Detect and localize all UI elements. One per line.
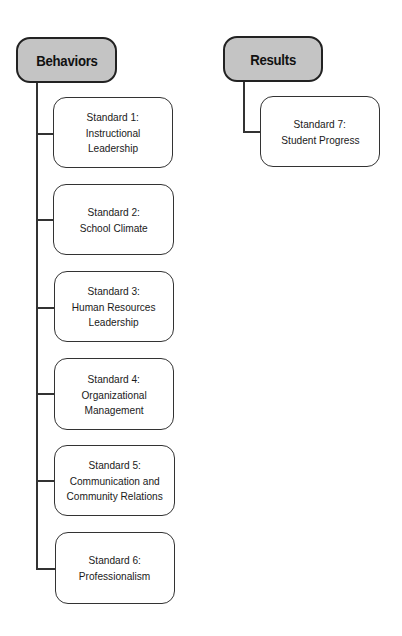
standard-3-title: Standard 3: [88, 283, 140, 300]
standard-1-name: Instructional Leadership [86, 126, 141, 156]
connector-standard-2 [36, 219, 54, 221]
standard-1-box: Standard 1: Instructional Leadership [53, 97, 173, 168]
standard-2-name: School Climate [79, 221, 147, 236]
standard-4-box: Standard 4: Organizational Management [54, 358, 174, 430]
standard-3-name: Human Resources Leadership [72, 300, 156, 330]
standard-1-title: Standard 1: [87, 109, 139, 126]
org-chart-diagram: Behaviors Standard 1: Instructional Lead… [0, 0, 402, 636]
standard-7-box: Standard 7: Student Progress [260, 96, 380, 167]
connector-standard-4 [36, 393, 55, 395]
behaviors-vertical-connector [36, 83, 38, 569]
standard-5-name: Communication and Community Relations [66, 474, 162, 504]
standard-6-title: Standard 6: [89, 552, 141, 569]
standard-4-title: Standard 4: [88, 371, 140, 388]
connector-standard-6 [36, 568, 56, 570]
connector-standard-1 [36, 133, 54, 135]
connector-standard-5 [36, 480, 55, 482]
standard-3-box: Standard 3: Human Resources Leadership [54, 271, 174, 342]
standard-4-name: Organizational Management [81, 388, 146, 418]
behaviors-header-box: Behaviors [16, 37, 117, 83]
connector-standard-7 [243, 131, 261, 133]
standard-2-box: Standard 2: School Climate [53, 184, 174, 255]
standard-5-title: Standard 5: [88, 457, 140, 474]
standard-6-name: Professionalism [79, 569, 150, 584]
standard-7-name: Student Progress [281, 133, 359, 148]
standard-7-title: Standard 7: [294, 116, 346, 133]
connector-standard-3 [36, 307, 55, 309]
standard-5-box: Standard 5: Communication and Community … [54, 445, 175, 516]
results-header-label: Results [250, 51, 296, 68]
behaviors-header-label: Behaviors [36, 52, 97, 69]
results-vertical-connector [243, 82, 245, 132]
standard-2-title: Standard 2: [87, 204, 139, 221]
standard-6-box: Standard 6: Professionalism [55, 532, 175, 604]
results-header-box: Results [223, 36, 323, 82]
